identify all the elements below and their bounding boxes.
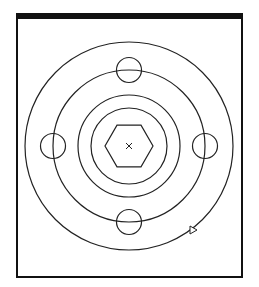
- frame-top-bar: [16, 13, 243, 19]
- center-x-mark-icon: [126, 143, 132, 149]
- diagram-canvas: [0, 0, 259, 287]
